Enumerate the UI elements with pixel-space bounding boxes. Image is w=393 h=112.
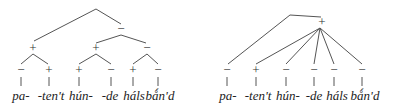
leaf-mark: +	[129, 62, 136, 77]
leaf-mark: −	[282, 62, 289, 77]
leaf-mark: +	[45, 62, 52, 77]
syllable-word: -ten't	[245, 88, 272, 103]
syllable-word: pa-	[11, 88, 29, 103]
left-tree: − + + − − + + − + − pa- -ten't hún- -de	[11, 9, 175, 103]
syllable-word: pa-	[218, 88, 236, 103]
leaf-mark: −	[154, 62, 161, 77]
syllable-word: -ten't	[38, 88, 65, 103]
syllable-word: hún-	[276, 88, 300, 103]
edge	[256, 28, 320, 64]
leaf-mark: +	[75, 62, 82, 77]
node-minus-mid: −	[117, 21, 124, 36]
syllable-word: -de	[306, 88, 323, 103]
leaf-mark: −	[107, 62, 114, 77]
node-plus-middle: +	[92, 40, 99, 55]
node-plus-head: +	[318, 14, 325, 29]
node-plus-left: +	[29, 40, 36, 55]
node-minus-right: −	[143, 40, 150, 55]
syllable-word: -de	[102, 88, 119, 103]
edge	[320, 28, 362, 64]
syllable-word: háls	[123, 88, 145, 103]
leaf-mark: −	[330, 62, 337, 77]
leaf-mark: −	[310, 62, 317, 77]
edge-root-left	[34, 9, 96, 41]
syllable-word: bǻn'd	[351, 88, 380, 103]
leaf-mark: −	[358, 62, 365, 77]
edge-mid-left	[96, 35, 121, 43]
prosodic-trees-diagram: − + + − − + + − + − pa- -ten't hún- -de	[0, 0, 393, 112]
syllable-word: háls	[326, 88, 348, 103]
syllable-word: hún-	[69, 88, 93, 103]
leaf-mark: −	[17, 62, 24, 77]
edge-root-right	[290, 15, 321, 17]
leaf-mark: +	[252, 62, 259, 77]
edge-root-left	[228, 15, 290, 64]
syllable-word: bǻn'd	[146, 88, 175, 103]
right-tree: + − + − − − − pa- -ten't hún- -de háls b…	[218, 14, 380, 103]
leaf-mark: −	[223, 62, 230, 77]
edge-mid-right	[121, 35, 146, 43]
